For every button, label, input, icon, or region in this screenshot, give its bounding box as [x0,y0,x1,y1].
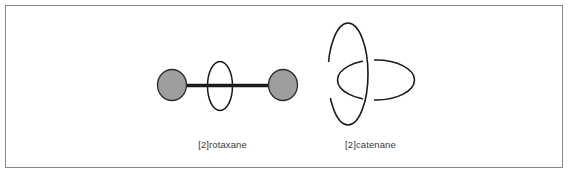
rotaxane-left-stopper [158,70,187,101]
catenane-vertical-ring [328,23,368,125]
figure-root: [2]rotaxane [2]catenane [0,0,570,174]
label-rotaxane: [2]rotaxane [150,139,295,150]
rotaxane-right-stopper [269,70,298,101]
rotaxane-structure [158,62,298,111]
catenane-horizontal-ring [338,60,415,100]
catenane-structure [328,23,415,125]
label-catenane: [2]catenane [298,139,443,150]
